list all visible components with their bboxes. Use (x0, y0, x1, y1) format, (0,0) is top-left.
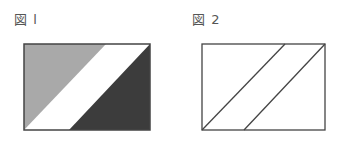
figure-2-diagonal-line-1 (202, 44, 285, 130)
figure-2 (202, 44, 325, 130)
figure-2-diagonal-line-2 (244, 44, 325, 130)
figure-1 (24, 44, 150, 130)
figure-2-border (202, 44, 325, 130)
figures-canvas (0, 0, 341, 150)
